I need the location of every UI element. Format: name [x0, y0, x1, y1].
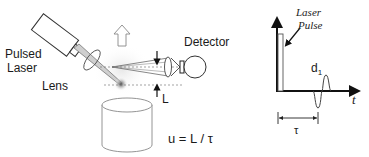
delay-label: τ [294, 124, 298, 137]
time-axis-label: t [352, 93, 356, 106]
detector [184, 56, 206, 78]
sample-cylinder [102, 98, 152, 152]
velocity-equation: u = L / τ [168, 132, 213, 145]
pulsed-laser-label-line1: Pulsed [5, 48, 42, 61]
distance-label: L [162, 93, 169, 106]
up-arrow-icon [114, 25, 130, 46]
pulsed-laser-label-line2: Laser [7, 62, 37, 75]
focal-spot [114, 77, 128, 91]
laser-pulse-label-line1: Laser [296, 6, 321, 19]
echo-label: d1 [311, 62, 322, 79]
laser-pulse-label-line2: Pulse [298, 19, 322, 32]
detector-label: Detector [184, 36, 229, 49]
detector-optics [165, 57, 185, 77]
lens-label: Lens [42, 80, 68, 93]
laser-pulse-bar [278, 34, 283, 91]
